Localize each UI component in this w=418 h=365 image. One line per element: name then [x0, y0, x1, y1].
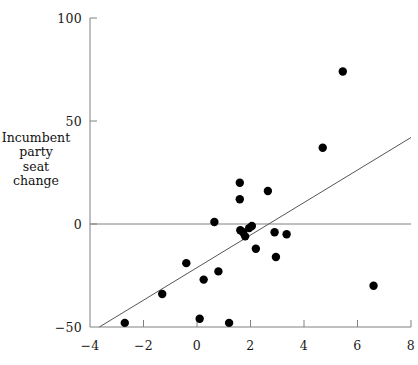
- y-axis-title-line-4: change: [0, 174, 72, 188]
- scatter-point: [252, 245, 260, 253]
- x-tick-label: −4: [80, 338, 99, 353]
- x-tick-label: 0: [193, 338, 201, 353]
- regression-line: [99, 137, 411, 327]
- y-axis-title-line-3: seat: [0, 160, 72, 174]
- scatter-point: [199, 275, 207, 283]
- scatter-point: [225, 319, 233, 327]
- y-axis-title: Incumbent party seat change: [0, 131, 72, 189]
- scatter-point: [214, 267, 222, 275]
- scatter-point: [272, 253, 280, 261]
- x-tick-label: 4: [300, 338, 308, 353]
- axes: [90, 18, 411, 327]
- y-axis-title-line-2: party: [0, 145, 72, 159]
- scatter-point: [248, 222, 256, 230]
- scatter-point: [241, 232, 249, 240]
- scatter-point: [236, 195, 244, 203]
- scatter-point: [319, 144, 327, 152]
- scatter-point: [264, 187, 272, 195]
- y-tick-label: 50: [40, 114, 82, 129]
- y-tick-label: −50: [40, 320, 82, 335]
- scatter-point: [195, 315, 203, 323]
- scatter-point: [270, 228, 278, 236]
- y-axis-title-line-1: Incumbent: [0, 131, 72, 145]
- scatter-point: [236, 179, 244, 187]
- y-tick-label: 0: [40, 217, 82, 232]
- fitted-line: [99, 137, 411, 327]
- x-tick-label: 8: [407, 338, 415, 353]
- scatter-plot-figure: Incumbent party seat change −50050100−4−…: [0, 0, 418, 365]
- scatter-point: [158, 290, 166, 298]
- x-tick-label: −2: [134, 338, 153, 353]
- scatter-point: [369, 282, 377, 290]
- x-tick-label: 2: [246, 338, 254, 353]
- scatter-point: [182, 259, 190, 267]
- scatter-point: [210, 218, 218, 226]
- y-tick-label: 100: [40, 11, 82, 26]
- x-tick-label: 6: [353, 338, 361, 353]
- scatter-point: [339, 67, 347, 75]
- data-points: [121, 67, 378, 327]
- scatter-point: [121, 319, 129, 327]
- scatter-point: [282, 230, 290, 238]
